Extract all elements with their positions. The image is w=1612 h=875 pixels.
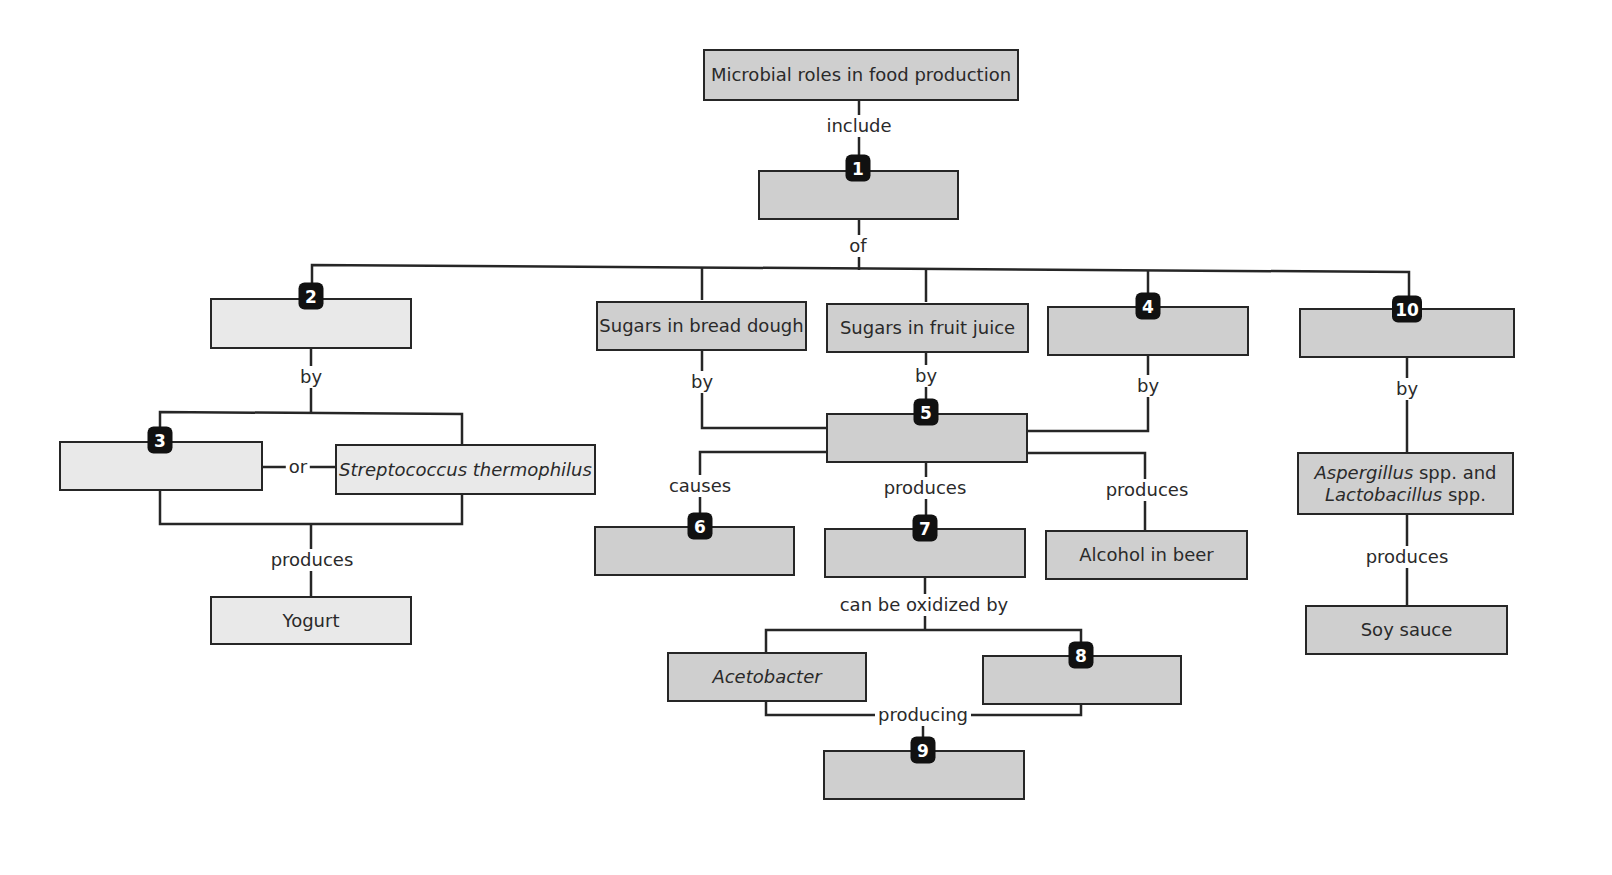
link-oxidized: can be oxidized by — [837, 594, 1012, 616]
link-produces-alcohol: produces — [1103, 479, 1192, 501]
node-acetobacter: Acetobacter — [667, 652, 867, 702]
node-fruit-juice: Sugars in fruit juice — [826, 303, 1029, 353]
node-streptococcus-label: Streptococcus thermophilus — [339, 459, 592, 481]
node-acetobacter-label: Acetobacter — [712, 666, 821, 688]
node-aspergillus-lactobacillus: Aspergillus spp. and Lactobacillus spp. — [1297, 452, 1514, 515]
link-produces-soy: produces — [1363, 546, 1452, 568]
root-node: Microbial roles in food production — [703, 49, 1019, 101]
node-soy-sauce-label: Soy sauce — [1361, 619, 1453, 641]
badge-8: 8 — [1069, 642, 1094, 669]
badge-5: 5 — [914, 399, 939, 426]
badge-10: 10 — [1392, 296, 1422, 323]
node-bread-dough: Sugars in bread dough — [596, 301, 807, 351]
badge-6: 6 — [688, 513, 713, 540]
badge-7: 7 — [913, 515, 938, 542]
link-by-4: by — [1134, 375, 1162, 397]
node-bread-dough-label: Sugars in bread dough — [599, 315, 803, 337]
link-causes: causes — [666, 475, 734, 497]
badge-2: 2 — [299, 283, 324, 310]
link-produces-yogurt: produces — [268, 549, 357, 571]
link-include: include — [823, 115, 894, 137]
aspergillus-line: Aspergillus spp. and — [1314, 462, 1496, 484]
root-node-label: Microbial roles in food production — [711, 64, 1011, 86]
link-by-juice: by — [912, 365, 940, 387]
node-soy-sauce: Soy sauce — [1305, 605, 1508, 655]
concept-map: Microbial roles in food production inclu… — [0, 0, 1612, 875]
link-or: or — [286, 456, 310, 478]
node-streptococcus: Streptococcus thermophilus — [335, 444, 596, 495]
node-alcohol-beer: Alcohol in beer — [1045, 530, 1248, 580]
badge-4: 4 — [1136, 293, 1161, 320]
connector-lines — [0, 0, 1612, 875]
badge-3: 3 — [148, 427, 173, 454]
aspergillus-label: Aspergillus — [1314, 462, 1413, 483]
lactobacillus-line: Lactobacillus spp. — [1325, 484, 1486, 506]
link-by-left: by — [297, 366, 325, 388]
link-produces-7: produces — [881, 477, 970, 499]
lactobacillus-suffix: spp. — [1442, 484, 1486, 505]
badge-1: 1 — [846, 155, 871, 182]
node-yogurt-label: Yogurt — [283, 610, 340, 632]
node-yogurt: Yogurt — [210, 596, 412, 645]
node-fruit-juice-label: Sugars in fruit juice — [840, 317, 1015, 339]
lactobacillus-label: Lactobacillus — [1325, 484, 1442, 505]
link-by-10: by — [1393, 378, 1421, 400]
link-producing: producing — [875, 704, 971, 726]
link-by-bread: by — [688, 371, 716, 393]
node-alcohol-beer-label: Alcohol in beer — [1079, 544, 1213, 566]
aspergillus-suffix: spp. and — [1413, 462, 1496, 483]
badge-9: 9 — [911, 737, 936, 764]
link-of: of — [846, 235, 869, 257]
